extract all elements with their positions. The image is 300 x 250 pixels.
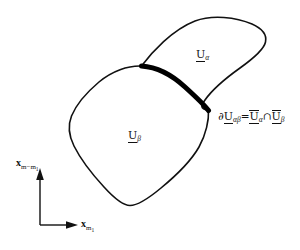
equals-symbol: = — [241, 110, 250, 122]
region-alpha-outline — [142, 17, 266, 110]
y-axis-label: xm−m1 — [16, 158, 39, 172]
boundary-equation: ∂Uαβ=Uα∩Uβ — [218, 110, 285, 124]
region-label-beta: Uβ — [128, 130, 141, 143]
x-axis-sub-subscript: 1 — [91, 224, 94, 232]
y-axis-sub-subscript: 1 — [36, 163, 39, 171]
intersect-symbol: ∩ — [263, 110, 272, 122]
boundary-rhs-second-subscript: β — [281, 115, 285, 124]
x-axis-label: xm1 — [81, 219, 94, 233]
boundary-lhs-symbol: U — [224, 111, 233, 124]
shared-boundary-arc — [142, 66, 209, 111]
region-alpha-subscript: α — [205, 53, 209, 62]
region-beta-subscript: β — [137, 134, 141, 143]
region-label-alpha: Uα — [196, 49, 209, 62]
diagram-svg — [0, 0, 300, 250]
region-beta-symbol: U — [128, 130, 137, 143]
y-axis-subscript: m−m — [21, 163, 36, 171]
boundary-lhs-subscript: αβ — [233, 115, 241, 124]
figure-canvas: Uα Uβ ∂Uαβ=Uα∩Uβ xm−m1 xm1 — [0, 0, 300, 250]
boundary-rhs-second-symbol: U — [272, 110, 281, 124]
boundary-rhs-first-symbol: U — [249, 110, 258, 124]
region-alpha-symbol: U — [196, 49, 205, 62]
x-axis-arrowhead — [66, 221, 78, 229]
